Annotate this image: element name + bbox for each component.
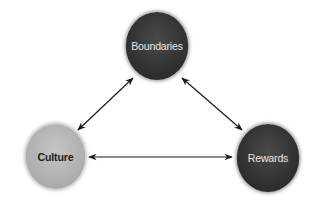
node-rewards-label: Rewards	[248, 152, 288, 164]
node-rewards: Rewards	[237, 124, 300, 192]
node-culture: Culture	[26, 124, 86, 189]
node-culture-label: Culture	[38, 151, 74, 163]
arrow-boundaries-culture	[78, 78, 133, 130]
node-boundaries-label: Boundaries	[131, 40, 183, 52]
node-boundaries: Boundaries	[126, 12, 189, 80]
arrow-boundaries-rewards	[182, 78, 242, 130]
